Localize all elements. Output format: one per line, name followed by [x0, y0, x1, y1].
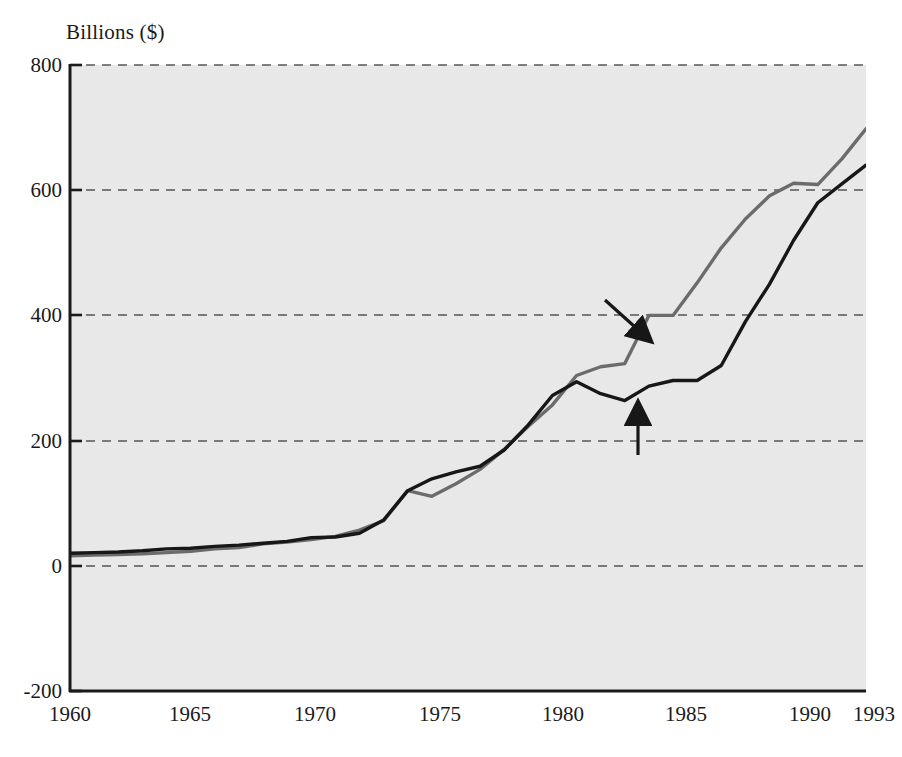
plot-area — [0, 0, 902, 757]
chart-figure: Billions ($) 800 600 400 200 0 -200 1960… — [0, 0, 902, 757]
plot-background — [70, 65, 866, 692]
